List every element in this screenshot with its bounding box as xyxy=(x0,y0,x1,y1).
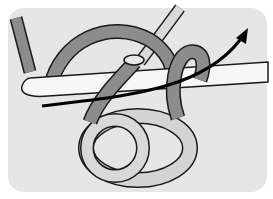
crochet-illustration xyxy=(0,0,273,199)
yarn-knot xyxy=(124,55,144,65)
crochet-diagram xyxy=(0,0,273,199)
